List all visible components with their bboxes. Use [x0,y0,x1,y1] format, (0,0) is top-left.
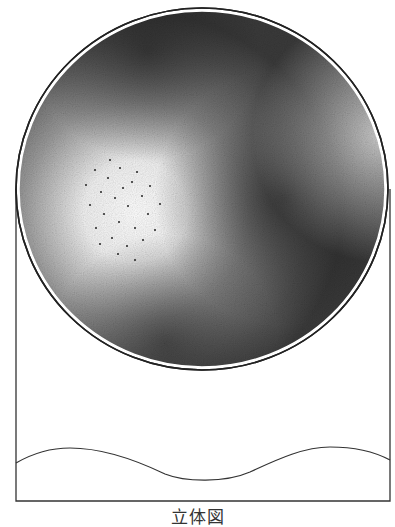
figure-caption: 立体図 [0,503,395,527]
stippled-sphere [16,8,390,372]
wavy-baseline [16,447,390,480]
stereogram-figure [0,0,395,527]
